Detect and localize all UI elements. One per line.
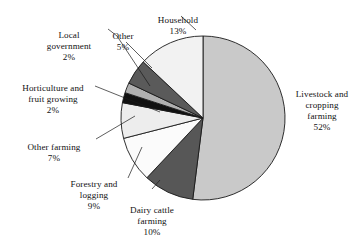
- slice-label-household-pct: 13%: [135, 26, 221, 37]
- slice-label-horticulture-pct: 2%: [2, 105, 104, 116]
- slice-label-other-farming-name: Other farming: [27, 142, 80, 152]
- slice-label-horticulture: Horticulture and fruit growing 2%: [2, 72, 104, 127]
- slice-label-dairy-cattle-pct: 10%: [114, 227, 190, 238]
- slice-label-forestry-name: Forestry and logging: [71, 179, 118, 200]
- slice-label-dairy-cattle: Dairy cattle farming 10%: [114, 194, 190, 247]
- slice-label-livestock-pct: 52%: [286, 122, 358, 133]
- pie-slice-livestock-and-cropping-farming[interactable]: [193, 36, 285, 200]
- slice-label-other-farming-pct: 7%: [8, 153, 100, 164]
- slice-label-household: Household 13%: [135, 4, 221, 48]
- slice-label-horticulture-name: Horticulture and fruit growing: [22, 83, 83, 104]
- slice-label-dairy-cattle-name: Dairy cattle farming: [130, 205, 174, 226]
- slice-label-livestock: Livestock and cropping farming 52%: [286, 78, 358, 144]
- slice-label-livestock-name: Livestock and cropping farming: [296, 89, 349, 121]
- slice-label-local-government: Local government 2%: [30, 19, 108, 74]
- pie-slices: [121, 36, 285, 200]
- slice-label-other-name: Other: [112, 31, 133, 41]
- slice-label-household-name: Household: [158, 15, 198, 25]
- pie-chart: Household 13% Other 5% Local government …: [0, 0, 360, 247]
- slice-label-local-government-name: Local government: [47, 30, 91, 51]
- slice-label-local-government-pct: 2%: [30, 52, 108, 63]
